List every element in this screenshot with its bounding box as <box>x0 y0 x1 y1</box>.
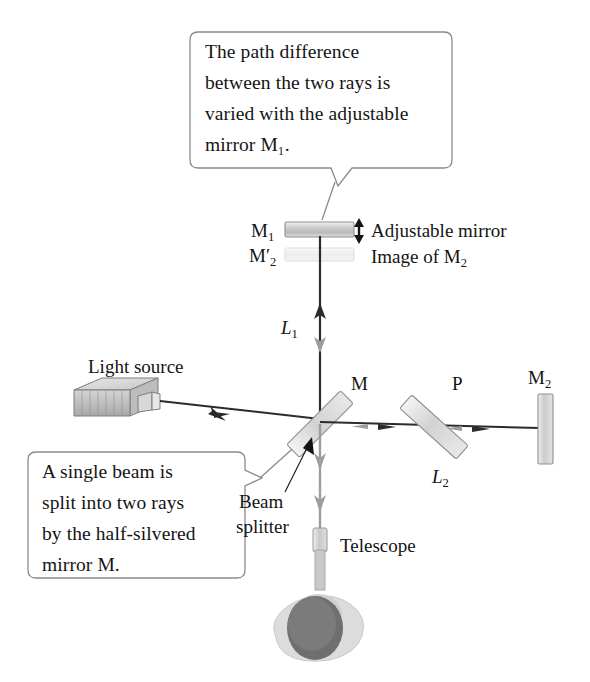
incoming-beam-from-source <box>160 401 320 421</box>
label-M2-prime: M′2 <box>249 244 276 270</box>
top-callout-line-2: between the two rays is <box>205 71 390 96</box>
label-adjustable-mirror: Adjustable mirror <box>371 219 507 243</box>
top-callout-leader <box>322 182 335 220</box>
label-image-of-M2-subscript: 2 <box>461 256 467 270</box>
label-M1: M1 <box>251 219 274 245</box>
label-M2-prime-letter: M <box>249 245 266 266</box>
figure-canvas: The path difference between the two rays… <box>0 0 590 682</box>
top-callout-line-3: varied with the adjustable <box>205 102 409 127</box>
label-M: M <box>351 372 368 396</box>
bottom-callout-line-1: A single beam is <box>42 460 173 485</box>
adjustable-double-arrow-icon <box>354 218 364 244</box>
bottom-callout-line-2: split into two rays <box>42 491 184 516</box>
telescope-shape <box>313 528 327 590</box>
label-telescope: Telescope <box>340 534 416 558</box>
vertical-beam-arm-L1 <box>314 236 326 424</box>
label-L2-letter: L <box>432 466 443 487</box>
label-L1: L1 <box>281 316 298 342</box>
label-beam-splitter-line2: splitter <box>236 515 289 539</box>
bottom-callout-line-4: mirror M. <box>42 553 120 578</box>
label-beam-splitter-line1: Beam <box>239 490 283 514</box>
observer-shape <box>274 594 364 661</box>
label-M2-letter: M <box>528 367 545 388</box>
output-beam-to-telescope <box>314 424 326 545</box>
top-callout-line-4: mirror M₁. <box>205 133 290 158</box>
label-L2-subscript: 2 <box>443 476 449 490</box>
label-P: P <box>452 372 463 396</box>
bottom-callout-line-3: by the half-silvered <box>42 522 196 547</box>
label-M2: M2 <box>528 366 551 392</box>
label-M1-letter: M <box>251 220 268 241</box>
label-L1-subscript: 1 <box>292 327 298 341</box>
label-L1-letter: L <box>281 317 292 338</box>
label-L2: L2 <box>432 465 449 491</box>
label-M2-subscript: 2 <box>545 377 551 391</box>
label-M2-prime-subscript: 2 <box>270 255 276 269</box>
label-image-of-M2-text: Image of M <box>371 246 461 267</box>
label-M1-subscript: 1 <box>268 230 274 244</box>
light-source-shape <box>74 378 160 416</box>
fixed-mirror-M2-shape <box>538 394 553 464</box>
adjustable-mirror-M1-shape <box>285 222 354 237</box>
label-image-of-M2: Image of M2 <box>371 245 467 271</box>
top-callout-line-1: The path difference <box>205 40 359 65</box>
label-light-source: Light source <box>88 355 184 379</box>
